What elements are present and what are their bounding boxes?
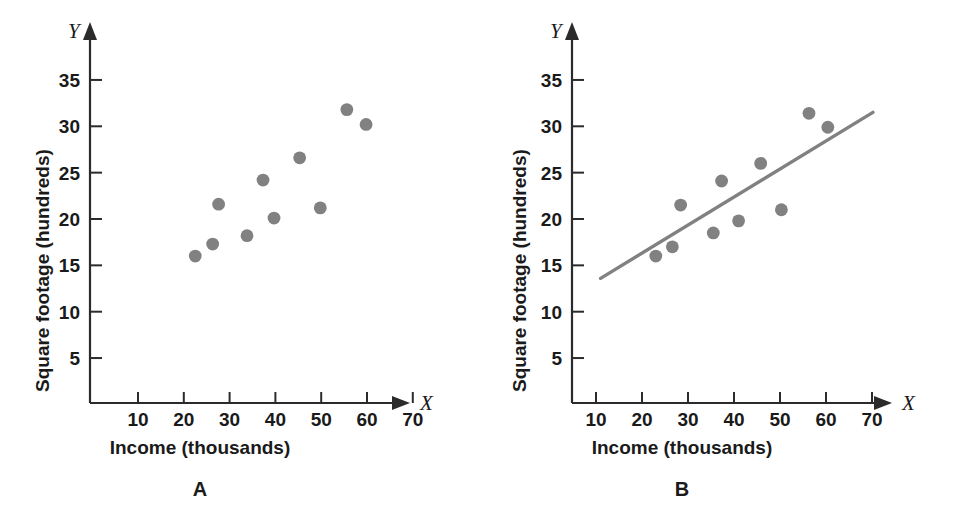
x-tick-label: 60	[815, 409, 836, 430]
x-tick-label: 10	[127, 409, 148, 430]
panel-a-x-axis-title: Income (thousands)	[0, 437, 420, 459]
data-point	[821, 121, 834, 134]
y-tick-label: 5	[69, 348, 80, 369]
y-axis-arrow-icon	[83, 22, 97, 40]
y-tick-label: 20	[59, 209, 80, 230]
y-tick-label: 25	[59, 163, 81, 184]
y-tick-label: 35	[541, 70, 563, 91]
data-point	[775, 203, 788, 216]
panel-a-datapoints	[189, 103, 373, 262]
y-tick-label: 5	[551, 348, 562, 369]
data-point	[360, 118, 373, 131]
y-tick-label: 20	[541, 209, 562, 230]
panel-b-y-variable: Y	[550, 19, 564, 43]
x-tick-label: 10	[585, 409, 606, 430]
data-point	[340, 103, 353, 116]
data-point	[754, 157, 767, 170]
panel-b: 10203040506070 5101520253035 X Y Income …	[477, 0, 953, 527]
panel-b-x-ticks: 10203040506070	[585, 392, 882, 430]
panel-b-y-ticks: 5101520253035	[541, 70, 584, 369]
panel-b-axes	[565, 22, 892, 410]
x-tick-label: 60	[356, 409, 377, 430]
data-point	[257, 174, 270, 187]
x-tick-label: 40	[723, 409, 744, 430]
panel-a-x-ticks: 10203040506070	[127, 392, 423, 430]
data-point	[314, 201, 327, 214]
x-tick-label: 50	[769, 409, 790, 430]
data-point	[715, 175, 728, 188]
panel-b-trendline	[601, 112, 873, 278]
x-axis-arrow-icon	[392, 396, 410, 410]
y-tick-label: 15	[541, 255, 563, 276]
panel-a: 10203040506070 5101520253035 X Y Income …	[0, 0, 476, 527]
data-point	[189, 250, 202, 263]
data-point	[803, 107, 816, 120]
data-point	[707, 227, 720, 240]
x-tick-label: 20	[631, 409, 652, 430]
data-point	[212, 198, 225, 211]
panel-a-plot: 10203040506070 5101520253035 X Y	[0, 0, 476, 430]
x-axis-arrow-icon	[874, 396, 892, 410]
y-tick-label: 15	[59, 255, 81, 276]
panel-b-datapoints	[649, 107, 834, 263]
y-tick-label: 30	[59, 116, 80, 137]
panel-a-y-ticks: 5101520253035	[59, 70, 102, 369]
data-point	[268, 212, 281, 225]
data-point	[241, 229, 254, 242]
y-tick-label: 10	[541, 302, 562, 323]
data-point	[666, 240, 679, 253]
x-tick-label: 50	[311, 409, 332, 430]
regression-line	[601, 112, 873, 278]
x-tick-label: 40	[265, 409, 286, 430]
panel-b-y-axis-title: Square footage (hundreds)	[509, 149, 531, 392]
data-point	[649, 250, 662, 263]
panel-b-x-axis-title: Income (thousands)	[462, 437, 902, 459]
x-tick-label: 30	[677, 409, 698, 430]
y-tick-label: 30	[541, 116, 562, 137]
x-tick-label: 30	[219, 409, 240, 430]
panel-a-y-axis-title: Square footage (hundreds)	[32, 149, 54, 392]
panel-b-label: B	[462, 478, 902, 501]
scatterplot-figure: 10203040506070 5101520253035 X Y Income …	[0, 0, 953, 527]
data-point	[674, 199, 687, 212]
y-axis-arrow-icon	[565, 22, 579, 40]
panel-b-x-variable: X	[901, 391, 916, 415]
data-point	[732, 214, 745, 227]
y-tick-label: 25	[541, 163, 563, 184]
panel-a-axes	[83, 22, 410, 410]
x-tick-label: 70	[861, 409, 882, 430]
data-point	[206, 238, 219, 251]
panel-a-x-variable: X	[419, 391, 434, 415]
x-tick-label: 20	[173, 409, 194, 430]
y-tick-label: 10	[59, 302, 80, 323]
panel-b-plot: 10203040506070 5101520253035 X Y	[477, 0, 953, 430]
y-tick-label: 35	[59, 70, 81, 91]
panel-a-label: A	[0, 478, 420, 501]
panel-a-y-variable: Y	[68, 19, 82, 43]
data-point	[293, 151, 306, 164]
